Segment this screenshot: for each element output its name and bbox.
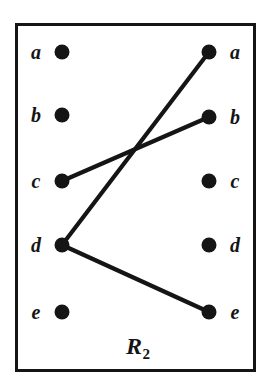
relation-diagram: abcdeabcde R2 — [0, 0, 267, 392]
edge-d-to-e — [62, 245, 209, 312]
node-right-e — [202, 305, 217, 320]
label-left-d: d — [31, 235, 41, 255]
label-right-a: a — [230, 42, 240, 62]
edge-d-to-a — [62, 52, 209, 245]
node-left-a — [55, 45, 70, 60]
node-right-b — [202, 110, 217, 125]
label-right-d: d — [230, 235, 240, 255]
label-right-e: e — [231, 302, 240, 322]
caption-subscript: 2 — [143, 346, 151, 362]
figure-caption: R2 — [126, 334, 150, 362]
label-right-c: c — [231, 171, 240, 191]
node-left-c — [55, 174, 70, 189]
label-left-e: e — [32, 302, 41, 322]
node-left-d — [55, 238, 70, 253]
node-right-d — [202, 238, 217, 253]
node-right-a — [202, 45, 217, 60]
node-right-c — [202, 174, 217, 189]
label-left-a: a — [31, 42, 41, 62]
label-right-b: b — [230, 107, 240, 127]
label-left-c: c — [32, 171, 41, 191]
caption-base: R — [126, 333, 142, 359]
node-left-b — [55, 108, 70, 123]
label-left-b: b — [31, 105, 41, 125]
node-left-e — [55, 305, 70, 320]
edges-group — [62, 52, 209, 312]
